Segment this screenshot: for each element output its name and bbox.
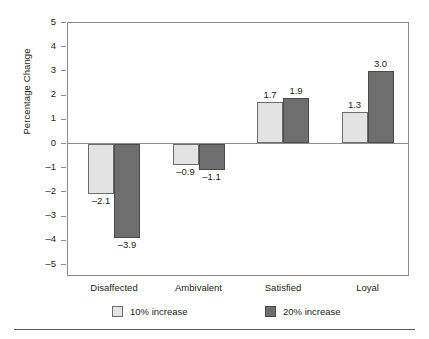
y-axis-tick-mark <box>61 216 66 217</box>
y-axis-tick-mark <box>61 191 66 192</box>
chart-legend: 10% increase20% increase <box>67 303 409 321</box>
y-axis-tick-label: 1 <box>34 112 56 123</box>
bar <box>114 144 140 238</box>
y-axis-tick-mark <box>61 167 66 168</box>
y-axis-tick-label: 5 <box>34 16 56 27</box>
y-axis-tick-mark <box>61 46 66 47</box>
legend-item: 20% increase <box>265 303 341 319</box>
bar-value-label: –1.1 <box>189 171 235 182</box>
legend-label: 10% increase <box>130 306 188 317</box>
bottom-rule <box>14 329 415 330</box>
y-axis-tick-label: –1 <box>34 161 56 172</box>
y-axis-title: Percentage Change <box>21 12 32 172</box>
bar-value-label: –3.9 <box>104 239 150 250</box>
bar <box>368 71 394 144</box>
y-axis-tick-mark <box>61 95 66 96</box>
legend-swatch <box>112 306 123 317</box>
y-axis-tick-label: 2 <box>34 88 56 99</box>
x-axis-category-label: Disaffected <box>69 282 159 293</box>
bar <box>342 112 368 143</box>
y-axis-tick-mark <box>61 119 66 120</box>
bar <box>173 144 199 166</box>
y-axis-tick-mark <box>61 70 66 71</box>
y-axis-tick-mark <box>61 22 66 23</box>
x-axis-category-label: Ambivalent <box>154 282 244 293</box>
bar-value-label: 3.0 <box>358 58 404 69</box>
legend-item: 10% increase <box>112 303 188 319</box>
bar <box>283 98 309 144</box>
legend-label: 20% increase <box>283 306 341 317</box>
x-axis-category-label: Loyal <box>323 282 413 293</box>
bar-chart-figure: Percentage Change 543210–1–2–3–4–5 –2.1–… <box>0 0 429 339</box>
y-axis-tick-label: –2 <box>34 185 56 196</box>
legend-swatch <box>265 306 276 317</box>
y-axis-tick-label: 3 <box>34 64 56 75</box>
y-axis-tick-mark <box>61 264 66 265</box>
bar <box>257 102 283 143</box>
y-axis-tick-mark <box>61 143 66 144</box>
x-axis-category-label: Satisfied <box>238 282 328 293</box>
y-axis-tick-label: 4 <box>34 40 56 51</box>
y-axis-tick-label: –5 <box>34 258 56 269</box>
y-axis-tick-label: 0 <box>34 137 56 148</box>
bar-value-label: 1.9 <box>273 85 319 96</box>
y-axis-tick-mark <box>61 240 66 241</box>
y-axis-tick-label: –4 <box>34 233 56 244</box>
bar <box>88 144 114 195</box>
bar <box>199 144 225 171</box>
y-axis-tick-label: –3 <box>34 209 56 220</box>
